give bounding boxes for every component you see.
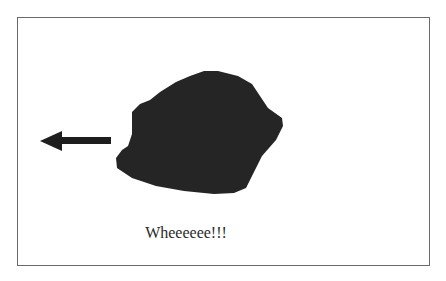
caption-label: Wheeeeee!!! bbox=[145, 224, 227, 241]
caption-text: Wheeeeee!!! bbox=[0, 224, 446, 242]
blob-shape bbox=[116, 71, 283, 194]
left-arrow-icon bbox=[40, 131, 111, 151]
